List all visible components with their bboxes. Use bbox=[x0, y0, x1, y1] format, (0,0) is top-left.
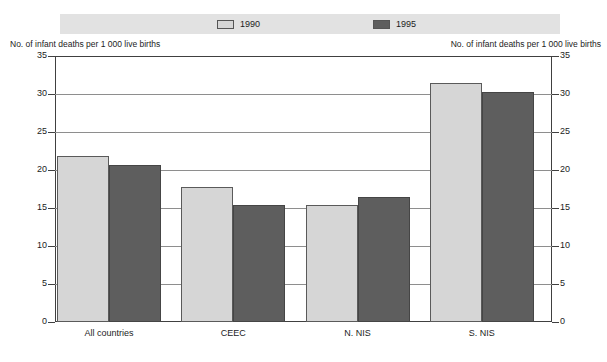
bar-1990-ceec bbox=[181, 187, 233, 322]
y-tick-mark-right-35 bbox=[552, 56, 559, 57]
y-tick-mark-right-0 bbox=[552, 322, 559, 323]
bar-1995-n-nis bbox=[358, 197, 410, 322]
y-tick-label-right-0: 0 bbox=[560, 317, 565, 326]
legend-label-1995: 1995 bbox=[396, 20, 416, 29]
y-tick-label-left-0: 0 bbox=[42, 317, 47, 326]
x-axis-label-s-nis: S. NIS bbox=[469, 329, 495, 338]
chart-legend: 1990 1995 bbox=[60, 14, 560, 34]
legend-label-1990: 1990 bbox=[240, 20, 260, 29]
bar-1990-s-nis bbox=[430, 83, 482, 322]
y-tick-label-left-25: 25 bbox=[37, 127, 47, 136]
y-tick-label-right-35: 35 bbox=[560, 51, 570, 60]
y-tick-label-left-30: 30 bbox=[37, 89, 47, 98]
legend-entry-1995: 1995 bbox=[373, 14, 416, 34]
y-tick-mark-right-15 bbox=[552, 208, 559, 209]
y-tick-label-right-25: 25 bbox=[560, 127, 570, 136]
legend-swatch-1990-icon bbox=[217, 20, 234, 29]
bar-chart-plot-area: 05101520253035 05101520253035 All countr… bbox=[55, 56, 552, 322]
y-tick-mark-right-30 bbox=[552, 94, 559, 95]
y-tick-label-right-20: 20 bbox=[560, 165, 570, 174]
y-tick-label-left-10: 10 bbox=[37, 241, 47, 250]
x-axis-label-all-countries: All countries bbox=[84, 329, 133, 338]
bar-1995-ceec bbox=[233, 205, 285, 322]
y-tick-mark-left-0 bbox=[48, 322, 55, 323]
y-tick-label-left-20: 20 bbox=[37, 165, 47, 174]
y-tick-label-left-35: 35 bbox=[37, 51, 47, 60]
x-axis-label-n-nis: N. NIS bbox=[344, 329, 371, 338]
bar-1990-n-nis bbox=[306, 205, 358, 322]
y-tick-label-right-5: 5 bbox=[560, 279, 565, 288]
legend-swatch-1995-icon bbox=[373, 20, 390, 29]
y-tick-mark-left-10 bbox=[48, 246, 55, 247]
y-tick-mark-left-20 bbox=[48, 170, 55, 171]
bar-1995-s-nis bbox=[482, 92, 534, 322]
bar-1990-all-countries bbox=[57, 156, 109, 322]
y-axis-caption-right: No. of infant deaths per 1 000 live birt… bbox=[451, 40, 601, 49]
bar-1995-all-countries bbox=[109, 165, 161, 322]
y-tick-mark-left-25 bbox=[48, 132, 55, 133]
y-tick-label-right-15: 15 bbox=[560, 203, 570, 212]
y-tick-label-left-15: 15 bbox=[37, 203, 47, 212]
y-tick-mark-right-25 bbox=[552, 132, 559, 133]
y-tick-mark-left-30 bbox=[48, 94, 55, 95]
y-tick-mark-left-35 bbox=[48, 56, 55, 57]
y-axis-caption-left: No. of infant deaths per 1 000 live birt… bbox=[10, 40, 160, 49]
y-tick-mark-right-5 bbox=[552, 284, 559, 285]
y-tick-mark-left-5 bbox=[48, 284, 55, 285]
y-tick-label-right-10: 10 bbox=[560, 241, 570, 250]
y-tick-mark-left-15 bbox=[48, 208, 55, 209]
x-axis-label-ceec: CEEC bbox=[221, 329, 246, 338]
y-tick-mark-right-20 bbox=[552, 170, 559, 171]
gridline-35 bbox=[55, 56, 552, 57]
y-tick-mark-right-10 bbox=[552, 246, 559, 247]
legend-entry-1990: 1990 bbox=[217, 14, 260, 34]
y-tick-label-left-5: 5 bbox=[42, 279, 47, 288]
y-tick-label-right-30: 30 bbox=[560, 89, 570, 98]
